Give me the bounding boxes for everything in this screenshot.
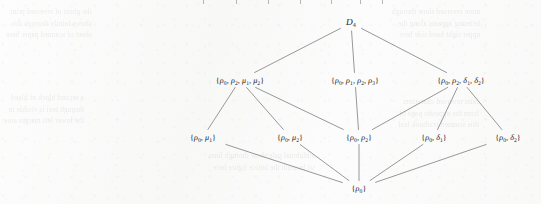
lattice-edge-b-1-to-bottom xyxy=(226,145,343,183)
lattice-node-top: D4 xyxy=(345,18,357,28)
lattice-edge-b-5-to-bottom xyxy=(376,145,487,183)
lattice-edge-b-2-to-bottom xyxy=(300,145,349,181)
lattice-edge-m-left-to-b-1 xyxy=(208,88,235,130)
scanned-page: the ghost of reversed print shows faintl… xyxy=(0,0,541,204)
lattice-node-bottom: {ρ0} xyxy=(351,184,368,193)
lattice-edge-m-mid-to-b-3 xyxy=(356,88,359,130)
lattice-edge-m-right-to-b-3 xyxy=(372,88,447,130)
lattice-node-b-4: {ρ0, δ1} xyxy=(420,133,448,142)
lattice-edge-top-to-m-right xyxy=(362,28,447,72)
lattice-node-m-mid: {ρ0, ρ1, ρ2, ρ3} xyxy=(330,76,380,85)
lattice-node-b-3: {ρ0, ρ2} xyxy=(345,133,373,142)
lattice-edge-m-left-to-b-3 xyxy=(256,88,344,130)
lattice-edge-m-right-to-b-4 xyxy=(438,88,458,130)
lattice-edge-m-left-to-b-2 xyxy=(247,88,284,130)
lattice-node-m-right: {ρ0, ρ2, δ1, δ2} xyxy=(436,76,486,85)
lattice-node-b-5: {ρ0, δ2} xyxy=(494,133,522,142)
lattice-edge-top-to-m-mid xyxy=(352,31,355,73)
lattice-edge-top-to-m-left xyxy=(255,28,341,72)
lattice-node-b-1: {ρ0, μ1} xyxy=(189,133,217,142)
lattice-node-m-left: {ρ0, ρ2, μ1, μ2} xyxy=(215,76,265,85)
lattice-edges xyxy=(0,0,541,204)
lattice-node-b-2: {ρ0, μ2} xyxy=(276,133,304,142)
lattice-edge-m-right-to-b-5 xyxy=(467,88,502,130)
